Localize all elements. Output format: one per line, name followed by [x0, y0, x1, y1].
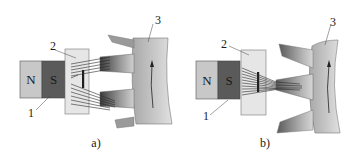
north-label-a: N [26, 72, 36, 87]
south-label-a: S [50, 72, 57, 87]
caption-b: b) [260, 136, 270, 150]
callout-2-a: 2 [50, 39, 56, 53]
sensor-b [241, 50, 266, 115]
rotor-a [100, 35, 172, 128]
callout-3-a: 3 [155, 13, 161, 27]
magnetic-sensor-diagram: N S [0, 0, 357, 163]
magnet-a: N S [20, 61, 65, 98]
callout-2-b: 2 [221, 37, 227, 51]
callout-1-b: 1 [203, 109, 209, 123]
callout-3-b: 3 [330, 15, 336, 29]
sensor-a [65, 49, 89, 114]
caption-a: a) [91, 136, 100, 150]
hall-element-a [82, 70, 84, 88]
north-label-b: N [202, 73, 212, 88]
panel-b: N S [196, 15, 340, 150]
rotor-b [276, 40, 340, 133]
panel-a: N S [20, 13, 172, 150]
magnet-b: N S [196, 61, 240, 99]
callout-1-a: 1 [28, 106, 34, 120]
south-label-b: S [225, 73, 232, 88]
